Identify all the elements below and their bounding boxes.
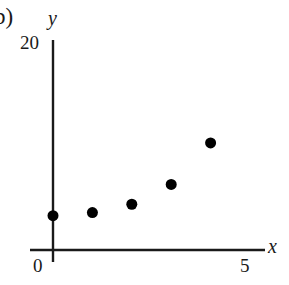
x-axis-label: x	[268, 236, 277, 256]
y-axis-label: y	[48, 8, 57, 28]
scatter-plot-figure: b) y x 20 0 5	[0, 0, 289, 285]
data-point	[87, 207, 98, 218]
data-point	[166, 179, 177, 190]
x-axis-tick-label-5: 5	[240, 256, 250, 275]
plot-canvas	[0, 0, 289, 285]
data-point	[205, 137, 216, 148]
y-axis-tick-label-20: 20	[20, 33, 39, 52]
data-point-group	[48, 137, 217, 221]
axis-lines	[30, 40, 265, 262]
x-axis-tick-label-0: 0	[33, 256, 43, 275]
data-point	[126, 199, 137, 210]
data-point	[48, 210, 59, 221]
